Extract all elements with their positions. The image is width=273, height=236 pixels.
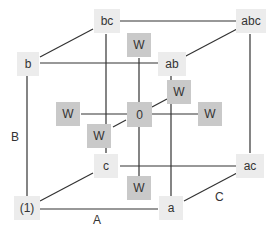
corner-c: c	[94, 154, 118, 178]
center-point: 0	[127, 102, 152, 127]
star-point-front: W	[87, 124, 111, 148]
star-point-bottom: W	[127, 176, 151, 200]
corner-a: a	[159, 196, 183, 220]
axis-label-c: C	[215, 190, 224, 204]
corner-ab: ab	[158, 52, 186, 76]
corner-one: (1)	[14, 196, 40, 220]
star-point-back: W	[167, 80, 191, 104]
corner-ac: ac	[236, 154, 264, 178]
star-point-top: W	[127, 33, 151, 57]
corner-bc: bc	[94, 9, 120, 33]
axis-label-b: B	[11, 130, 19, 144]
corner-b: b	[17, 52, 39, 76]
cube-diagram: bc abc b ab c ac (1) a 0 W W W W W W B A…	[0, 0, 273, 236]
axis-label-a: A	[93, 213, 101, 227]
star-point-left: W	[56, 102, 80, 126]
corner-abc: abc	[236, 9, 266, 33]
star-point-right: W	[198, 102, 222, 126]
